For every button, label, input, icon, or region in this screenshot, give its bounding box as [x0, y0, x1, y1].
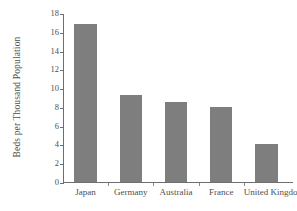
bar	[210, 107, 233, 182]
x-axis-labels: JapanGermanyAustraliaFranceUnited Kingdo…	[63, 186, 293, 204]
y-tick-label: 10	[51, 83, 60, 94]
bar	[165, 102, 188, 182]
y-tick-label: 2	[55, 158, 59, 169]
y-tick-label: 16	[51, 27, 60, 38]
bars-layer	[63, 14, 289, 183]
y-tick-label: 8	[55, 102, 59, 113]
bar	[255, 144, 278, 182]
bar-chart: Beds per Thousand Population 02468101214…	[0, 0, 297, 211]
x-axis-label: Japan	[63, 186, 108, 198]
x-axis-label: Germany	[108, 186, 153, 198]
bar	[74, 24, 97, 182]
y-tick-label: 18	[51, 8, 60, 19]
x-axis-label: Australia	[153, 186, 198, 198]
y-tick-label: 12	[51, 64, 60, 75]
x-axis-label: France	[199, 186, 244, 198]
y-tick-mark	[60, 183, 64, 184]
y-tick-label: 4	[55, 139, 59, 150]
bar	[120, 95, 143, 182]
plot-area: 024681012141618	[63, 14, 289, 183]
y-axis-title: Beds per Thousand Population	[12, 12, 22, 182]
y-tick-label: 0	[55, 177, 59, 188]
x-axis-label: United Kingdom	[244, 186, 289, 198]
y-tick-label: 14	[51, 46, 60, 57]
y-tick: 0	[63, 183, 67, 184]
y-tick-label: 6	[55, 121, 59, 132]
